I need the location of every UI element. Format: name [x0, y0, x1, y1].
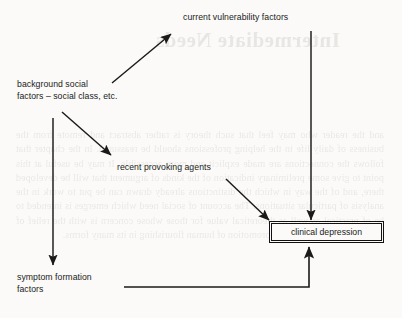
node-symptom-formation-line2: factors — [17, 284, 92, 296]
node-background-social-factors: background social factors – social class… — [17, 79, 117, 102]
arrow-background-to-vulnerability — [112, 34, 171, 83]
arrow-symptom-to-depression — [124, 247, 309, 287]
node-current-vulnerability-factors: current vulnerability factors — [183, 12, 288, 24]
page-bleed-through-layer: Intermediate Needs and the reader who ma… — [0, 0, 402, 318]
arrow-background-to-provoking — [62, 112, 111, 155]
node-symptom-formation-line1: symptom formation — [17, 272, 92, 284]
node-clinical-depression-label: clinical depression — [272, 227, 381, 237]
node-background-social-line2: factors – social class, etc. — [17, 91, 117, 103]
node-recent-provoking-agents: recent provoking agents — [117, 162, 211, 174]
diagram-arrows — [0, 0, 402, 318]
diagram-page: Intermediate Needs and the reader who ma… — [0, 0, 402, 318]
node-clinical-depression-box: clinical depression — [271, 223, 382, 241]
arrow-provoking-to-depression — [226, 179, 269, 220]
ghost-heading-text: Intermediate Needs — [155, 28, 340, 53]
node-background-social-line1: background social — [17, 79, 117, 91]
node-symptom-formation-factors: symptom formation factors — [17, 272, 92, 295]
